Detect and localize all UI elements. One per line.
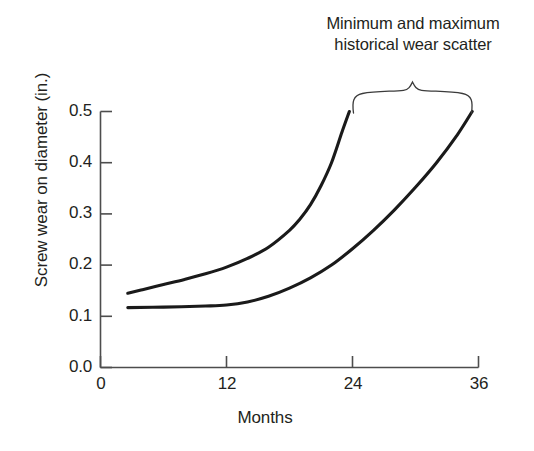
y-tick-label-0.1: 0.1 bbox=[48, 306, 92, 326]
y-axis-ticks bbox=[101, 112, 113, 368]
min-wear-curve bbox=[128, 112, 472, 308]
x-tick-label-12: 12 bbox=[207, 374, 247, 394]
x-axis-title: Months bbox=[195, 408, 335, 428]
y-tick-label-0.5: 0.5 bbox=[48, 101, 92, 121]
y-axis-title: Screw wear on diameter (in.) bbox=[32, 55, 52, 305]
x-axis-ticks bbox=[101, 356, 479, 368]
y-tick-label-0.2: 0.2 bbox=[48, 254, 92, 274]
x-tick-label-36: 36 bbox=[459, 374, 499, 394]
wear-scatter-brace bbox=[353, 82, 472, 113]
wear-scatter-chart: Minimum and maximum historical wear scat… bbox=[0, 0, 534, 451]
y-tick-label-0.3: 0.3 bbox=[48, 203, 92, 223]
y-tick-label-0.4: 0.4 bbox=[48, 152, 92, 172]
annotation-line-2: historical wear scatter bbox=[293, 34, 533, 55]
annotation-line-1: Minimum and maximum bbox=[293, 13, 533, 34]
x-tick-label-24: 24 bbox=[333, 374, 373, 394]
max-wear-curve bbox=[128, 112, 350, 294]
x-tick-label-0: 0 bbox=[81, 374, 121, 394]
